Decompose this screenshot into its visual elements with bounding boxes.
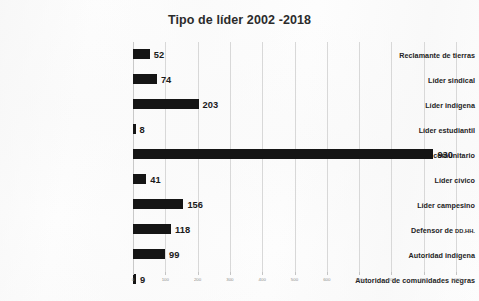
category-label: Reclamante de tierras <box>351 50 479 59</box>
category-label: Líder sindical <box>351 75 479 84</box>
x-tick-mark <box>424 272 425 275</box>
bar[interactable] <box>133 224 171 234</box>
x-tick-mark <box>198 272 199 275</box>
x-tick-label: 600 <box>323 277 330 282</box>
bar-row[interactable]: Líder comunitario930 <box>0 142 479 167</box>
bar-row[interactable]: Autoridad indígena99 <box>0 242 479 267</box>
page-title: Tipo de líder 2002 -2018 <box>0 13 479 27</box>
x-tick-mark <box>359 272 360 275</box>
bar-value-label: 8 <box>140 125 145 135</box>
x-tick-mark <box>327 272 328 275</box>
bar[interactable] <box>133 249 165 259</box>
x-tick-mark <box>262 272 263 275</box>
bar-row[interactable]: Líder cívico41 <box>0 167 479 192</box>
x-tick-mark <box>456 272 457 275</box>
bar[interactable] <box>133 74 157 84</box>
category-label: Líder estudiantil <box>351 125 479 134</box>
bar-row[interactable]: Reclamante de tierras52 <box>0 42 479 67</box>
x-tick-mark <box>295 272 296 275</box>
bar[interactable] <box>133 149 433 159</box>
bar-row[interactable]: Líder estudiantil8 <box>0 117 479 142</box>
bar-row[interactable]: Líder sindical74 <box>0 67 479 92</box>
x-tick-mark <box>165 272 166 275</box>
category-label: Defensor de DD.HH. <box>351 225 479 234</box>
bar-value-label: 74 <box>161 75 171 85</box>
bar-row[interactable]: Líder campesino156 <box>0 192 479 217</box>
x-tick-mark <box>133 272 134 275</box>
bar-value-label: 203 <box>203 100 219 110</box>
bar-value-label: 156 <box>187 200 203 210</box>
bar[interactable] <box>133 99 199 109</box>
bar-value-label: 99 <box>169 250 179 260</box>
bar-value-label: 41 <box>150 175 160 185</box>
x-tick-mark <box>391 272 392 275</box>
x-tick-mark <box>230 272 231 275</box>
x-tick-label: 100 <box>162 277 169 282</box>
x-tick-label: 300 <box>226 277 233 282</box>
bar-value-label: 118 <box>175 225 190 235</box>
category-label: Autoridad indígena <box>351 250 479 259</box>
x-tick-label: 900 <box>420 277 427 282</box>
x-tick-label: 700 <box>355 277 362 282</box>
category-label: Líder indígena <box>351 100 479 109</box>
x-tick-label: 400 <box>259 277 266 282</box>
category-label: Líder cívico <box>351 175 479 184</box>
bar[interactable] <box>133 124 136 134</box>
chart-page: Tipo de líder 2002 -2018 Reclamante de t… <box>0 0 479 301</box>
bar-value-label: 930 <box>437 150 453 160</box>
bar-value-label: 52 <box>154 50 164 60</box>
bar[interactable] <box>133 199 183 209</box>
x-tick-label: 200 <box>194 277 201 282</box>
bar-row[interactable]: Defensor de DD.HH.118 <box>0 217 479 242</box>
bar-row[interactable]: Líder indígena203 <box>0 92 479 117</box>
x-axis: 01002003004005006007008009001000 <box>133 272 456 292</box>
x-tick-label: 1000 <box>451 277 461 282</box>
x-tick-label: 800 <box>388 277 395 282</box>
category-label: Líder campesino <box>351 200 479 209</box>
x-tick-label: 500 <box>291 277 298 282</box>
bar[interactable] <box>133 174 146 184</box>
x-tick-label: 0 <box>132 277 134 282</box>
bar[interactable] <box>133 49 150 59</box>
